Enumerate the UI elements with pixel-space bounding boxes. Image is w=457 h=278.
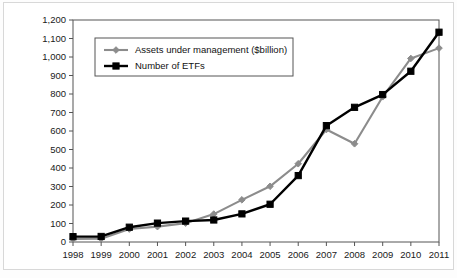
y-tick-label: 0	[61, 236, 66, 247]
data-point-marker	[70, 234, 76, 240]
y-tick-label: 800	[50, 88, 66, 99]
data-point-marker	[267, 201, 273, 207]
x-tick-label: 2000	[119, 249, 140, 260]
line-chart: 01002003004005006007008009001,0001,1001,…	[0, 0, 457, 278]
x-tick-label: 2011	[429, 249, 449, 260]
y-tick-label: 300	[50, 181, 66, 192]
x-axis: 1998199920002001200220032004200520062007…	[62, 242, 449, 260]
x-tick-label: 2003	[203, 249, 224, 260]
y-tick-label: 400	[50, 162, 66, 173]
data-point-marker	[98, 233, 104, 239]
x-tick-label: 1998	[62, 249, 83, 260]
y-tick-label: 200	[50, 199, 66, 210]
y-tick-label: 1,200	[42, 14, 66, 25]
x-tick-label: 2007	[316, 249, 337, 260]
data-point-marker	[351, 104, 357, 110]
chart-figure: 01002003004005006007008009001,0001,1001,…	[0, 0, 457, 278]
data-point-marker	[380, 91, 386, 97]
x-tick-label: 2009	[372, 249, 393, 260]
x-tick-label: 1999	[91, 249, 112, 260]
data-point-marker	[408, 68, 414, 74]
y-tick-label: 1,000	[42, 51, 66, 62]
chart-legend: Assets under management ($billion)Number…	[95, 38, 293, 76]
y-tick-label: 100	[50, 218, 66, 229]
x-tick-label: 2008	[344, 249, 365, 260]
x-tick-label: 2006	[288, 249, 309, 260]
data-point-marker	[113, 63, 119, 69]
y-axis: 01002003004005006007008009001,0001,1001,…	[42, 14, 73, 247]
x-tick-label: 2002	[175, 249, 196, 260]
x-tick-label: 2004	[231, 249, 252, 260]
x-tick-label: 2001	[147, 249, 168, 260]
data-point-marker	[154, 220, 160, 226]
data-point-marker	[295, 172, 301, 178]
y-tick-label: 900	[50, 70, 66, 81]
x-tick-label: 2005	[260, 249, 281, 260]
y-tick-label: 600	[50, 125, 66, 136]
y-tick-label: 1,100	[42, 33, 66, 44]
data-point-marker	[211, 217, 217, 223]
y-tick-label: 700	[50, 107, 66, 118]
data-point-marker	[436, 29, 442, 35]
x-tick-label: 2010	[400, 249, 421, 260]
data-point-marker	[323, 123, 329, 129]
data-point-marker	[239, 211, 245, 217]
legend-item-label: Number of ETFs	[135, 60, 205, 71]
legend-item-label: Assets under management ($billion)	[135, 44, 287, 55]
data-point-marker	[126, 224, 132, 230]
data-point-marker	[183, 218, 189, 224]
y-tick-label: 500	[50, 144, 66, 155]
